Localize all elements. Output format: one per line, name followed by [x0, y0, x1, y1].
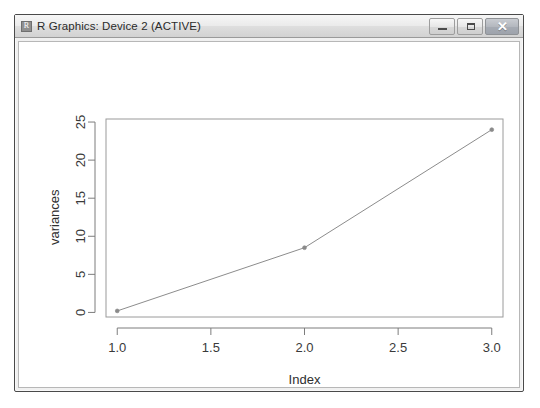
- y-tick-label: 0: [74, 309, 89, 316]
- graphics-canvas: 1.01.52.02.53.0Index0510152025variances: [18, 41, 520, 388]
- x-tick-label: 2.0: [295, 340, 313, 355]
- r-app-icon: [21, 21, 32, 32]
- window-title: R Graphics: Device 2 (ACTIVE): [37, 20, 429, 32]
- data-point: [490, 128, 494, 132]
- y-tick-label: 15: [74, 191, 89, 205]
- x-tick-label: 2.5: [389, 340, 407, 355]
- r-graphics-window: R Graphics: Device 2 (ACTIVE) ✕ 1.01.52.…: [14, 14, 524, 392]
- close-button[interactable]: ✕: [485, 18, 519, 35]
- window-controls: ✕: [429, 18, 519, 35]
- data-point: [303, 246, 307, 250]
- x-tick-label: 1.0: [108, 340, 126, 355]
- close-icon: ✕: [486, 19, 518, 34]
- y-axis-title: variances: [48, 189, 63, 245]
- y-tick-label: 10: [74, 229, 89, 243]
- scree-plot: 1.01.52.02.53.0Index0510152025variances: [19, 42, 519, 387]
- data-line: [117, 130, 492, 311]
- window-title-bar[interactable]: R Graphics: Device 2 (ACTIVE) ✕: [15, 15, 523, 38]
- x-tick-label: 3.0: [483, 340, 501, 355]
- plot-box: [106, 119, 503, 317]
- y-tick-label: 5: [74, 271, 89, 278]
- x-tick-label: 1.5: [202, 340, 220, 355]
- x-axis-title: Index: [289, 372, 321, 387]
- minimize-button[interactable]: [429, 18, 455, 35]
- y-tick-label: 20: [74, 153, 89, 167]
- maximize-button[interactable]: [457, 18, 483, 35]
- y-tick-label: 25: [74, 115, 89, 129]
- data-point: [115, 309, 119, 313]
